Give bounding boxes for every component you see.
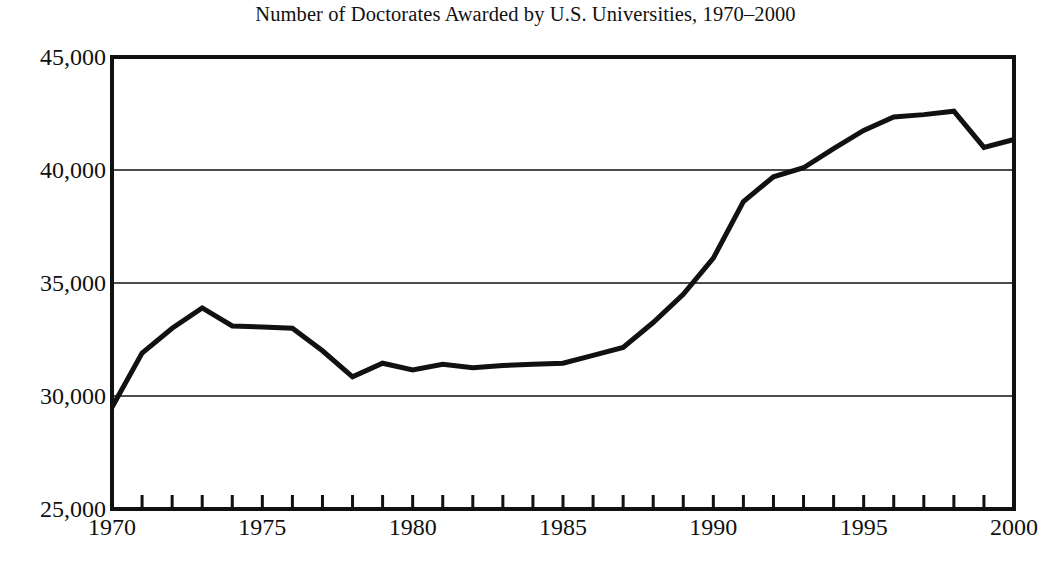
x-tick-label: 1970 <box>52 515 172 539</box>
x-axis-ticks <box>112 495 1014 509</box>
x-tick-label: 1985 <box>503 515 623 539</box>
x-tick-label: 2000 <box>954 515 1051 539</box>
data-series-line <box>112 111 1014 407</box>
y-tick-label: 40,000 <box>40 158 106 182</box>
x-tick-label: 1990 <box>653 515 773 539</box>
chart-figure: Number of Doctorates Awarded by U.S. Uni… <box>0 0 1051 565</box>
x-tick-label: 1980 <box>353 515 473 539</box>
y-tick-label: 45,000 <box>40 45 106 69</box>
y-tick-label: 30,000 <box>40 384 106 408</box>
x-tick-label: 1995 <box>804 515 924 539</box>
line-chart-plot <box>0 0 1051 565</box>
y-tick-label: 35,000 <box>40 271 106 295</box>
x-tick-label: 1975 <box>202 515 322 539</box>
